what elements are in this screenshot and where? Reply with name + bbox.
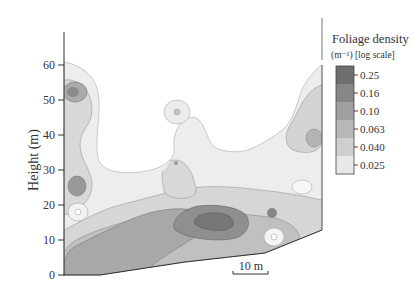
colorbar-swatch-0.025 xyxy=(336,156,354,174)
colorbar-swatch-0.10 xyxy=(336,102,354,120)
y-tick-50: 50 xyxy=(43,93,55,107)
colorbar-swatch-0.25 xyxy=(336,66,354,84)
contour-field xyxy=(63,62,322,275)
colorbar-label-0.10: 0.10 xyxy=(360,105,380,117)
colorbar-label-0.025: 0.025 xyxy=(360,159,385,171)
y-tick-0: 0 xyxy=(49,268,55,282)
scale-bar: 10 m xyxy=(233,259,268,274)
colorbar-label-0.25: 0.25 xyxy=(360,69,380,81)
y-axis: 0 10 20 30 40 50 60 Height (m) xyxy=(26,32,64,282)
contour-right-upper-blob xyxy=(306,129,322,147)
contour-right-mid-blob xyxy=(267,208,277,218)
colorbar-label-0.063: 0.063 xyxy=(360,123,385,135)
colorbar-label-0.16: 0.16 xyxy=(360,87,380,99)
scale-bar-label: 10 m xyxy=(239,259,264,273)
colorbar-subtitle: (m⁻¹) [log scale] xyxy=(331,50,395,61)
foliage-density-contour-chart: 0 10 20 30 40 50 60 Height (m) 10 m Foli… xyxy=(0,0,413,298)
contour-left-upper-core xyxy=(67,87,79,97)
y-tick-10: 10 xyxy=(43,233,55,247)
colorbar-swatch-0.040 xyxy=(336,138,354,156)
y-axis-title: Height (m) xyxy=(26,129,42,191)
contour-right-gap xyxy=(292,180,312,194)
colorbar-legend: Foliage density (m⁻¹) [log scale] 0.25 0… xyxy=(322,18,409,174)
y-tick-40: 40 xyxy=(43,128,55,142)
colorbar-swatch-0.063 xyxy=(336,120,354,138)
colorbar-title: Foliage density xyxy=(332,32,409,46)
y-tick-20: 20 xyxy=(43,198,55,212)
contour-left-mid-blob xyxy=(68,176,86,196)
colorbar-label-0.040: 0.040 xyxy=(360,141,385,153)
y-tick-30: 30 xyxy=(43,163,55,177)
y-tick-60: 60 xyxy=(43,58,55,72)
colorbar-swatch-0.16 xyxy=(336,84,354,102)
